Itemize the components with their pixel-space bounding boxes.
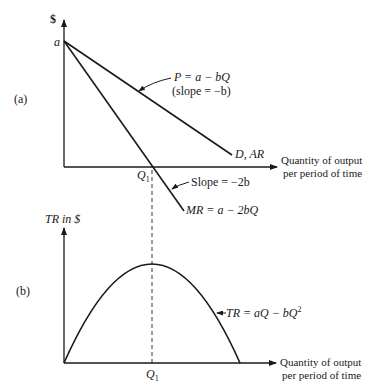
demand-annotation-arrow-icon xyxy=(139,78,171,91)
panel-b-x-axis-label-line2: per period of time xyxy=(282,369,361,381)
panel-b-y-axis-label: TR in $ xyxy=(45,212,80,226)
figure-canvas: (a) $ a P = a − bQ (slope = −b) D, AR Qu… xyxy=(0,0,384,389)
intercept-label: a xyxy=(54,35,60,49)
demand-slope-note: (slope = −b) xyxy=(172,84,231,98)
panel-a-x-axis-label-line1: Quantity of output xyxy=(281,154,362,166)
panel-a-q1-label: Q1 xyxy=(137,168,150,184)
demand-curve-label: D, AR xyxy=(234,147,265,161)
mr-slope-note: Slope = −2b xyxy=(191,175,250,189)
panel-a: (a) $ a P = a − bQ (slope = −b) D, AR Qu… xyxy=(14,12,362,217)
panel-b: (b) TR in $ TR = aQ − bQ2 Quantity of ou… xyxy=(16,212,361,383)
marginal-revenue-curve xyxy=(64,41,184,211)
mr-equation: MR = a − 2bQ xyxy=(185,203,259,217)
revenue-curves-figure: (a) $ a P = a − bQ (slope = −b) D, AR Qu… xyxy=(0,0,384,389)
panel-a-label: (a) xyxy=(14,92,27,106)
panel-a-y-axis-label: $ xyxy=(50,12,56,26)
panel-b-x-axis-label-line1: Quantity of output xyxy=(280,356,361,368)
panel-b-label: (b) xyxy=(16,284,30,298)
panel-b-q1-label: Q1 xyxy=(146,367,159,383)
tr-equation: TR = aQ − bQ2 xyxy=(226,305,302,320)
panel-a-x-axis-label-line2: per period of time xyxy=(283,167,362,179)
demand-curve xyxy=(64,41,232,155)
demand-equation: P = a − bQ xyxy=(173,70,230,84)
mr-slope-arrow-icon xyxy=(172,182,189,189)
